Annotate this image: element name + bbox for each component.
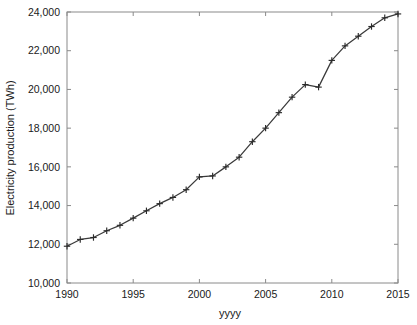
x-tick-label: 2015 bbox=[386, 288, 410, 300]
data-series-markers bbox=[64, 11, 401, 250]
chart-figure: 10,00012,00014,00016,00018,00020,00022,0… bbox=[0, 0, 417, 325]
y-tick-label: 10,000 bbox=[28, 277, 60, 289]
data-point-marker bbox=[170, 194, 176, 200]
series-polyline bbox=[67, 14, 398, 246]
y-tick-label: 22,000 bbox=[28, 44, 60, 56]
data-point-marker bbox=[382, 15, 388, 21]
y-axis-title: Electricity production (TWh) bbox=[4, 80, 16, 215]
data-point-marker bbox=[130, 215, 136, 221]
data-point-marker bbox=[117, 222, 123, 228]
data-point-marker bbox=[143, 208, 149, 214]
y-tick-label: 12,000 bbox=[28, 238, 60, 250]
data-point-marker bbox=[104, 228, 110, 234]
plot-axes-frame bbox=[67, 12, 398, 283]
data-point-marker bbox=[90, 234, 96, 240]
x-tick-label: 2005 bbox=[254, 288, 278, 300]
y-tick-label: 18,000 bbox=[28, 122, 60, 134]
x-axis-title: yyyy bbox=[219, 307, 242, 319]
x-tick-label: 1990 bbox=[55, 288, 79, 300]
y-axis-tick-labels: 10,00012,00014,00016,00018,00020,00022,0… bbox=[28, 6, 60, 289]
x-tick-label: 2010 bbox=[320, 288, 344, 300]
line-chart: 10,00012,00014,00016,00018,00020,00022,0… bbox=[0, 0, 417, 325]
data-series-line bbox=[67, 14, 398, 246]
x-tick-label: 2000 bbox=[188, 288, 212, 300]
data-point-marker bbox=[315, 84, 321, 90]
data-point-marker bbox=[156, 200, 162, 206]
y-tick-label: 16,000 bbox=[28, 161, 60, 173]
x-axis-tick-labels: 199019952000200520102015 bbox=[55, 288, 410, 300]
data-point-marker bbox=[77, 236, 83, 242]
y-tick-label: 24,000 bbox=[28, 6, 60, 18]
x-axis-ticks bbox=[67, 12, 398, 283]
y-tick-label: 14,000 bbox=[28, 199, 60, 211]
y-tick-label: 20,000 bbox=[28, 83, 60, 95]
x-tick-label: 1995 bbox=[122, 288, 146, 300]
y-axis-ticks bbox=[67, 12, 398, 283]
